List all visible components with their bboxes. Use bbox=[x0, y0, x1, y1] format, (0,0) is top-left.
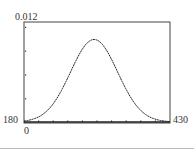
x-axis bbox=[24, 121, 170, 123]
chart-plot-area bbox=[0, 0, 194, 150]
plot-frame bbox=[24, 22, 170, 123]
y-axis-ticks bbox=[25, 27, 26, 100]
bottom-divider bbox=[0, 148, 194, 149]
density-curve bbox=[24, 40, 170, 122]
